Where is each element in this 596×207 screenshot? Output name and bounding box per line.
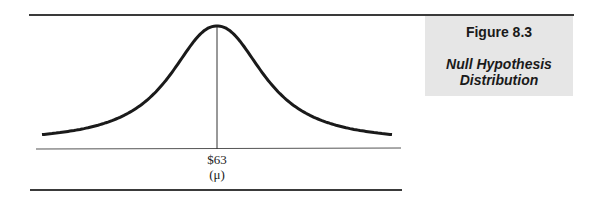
bottom-rule (30, 189, 402, 191)
x-axis (36, 148, 401, 149)
figure-number: Figure 8.3 (425, 24, 573, 40)
figure-caption: Figure 8.3 Null Hypothesis Distribution (425, 16, 573, 96)
mean-symbol-label: (μ) (187, 167, 247, 183)
figure-title: Null Hypothesis Distribution (425, 56, 573, 88)
mean-value-label: $63 (187, 152, 247, 168)
